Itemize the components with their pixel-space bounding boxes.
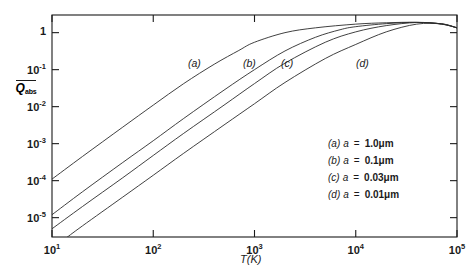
legend-entry-variable: a [343, 172, 349, 183]
legend-entry-variable: a [343, 155, 349, 166]
x-axis-title: T(K) [240, 253, 261, 265]
legend-entry-key: (b) [328, 155, 340, 166]
ytick-label-0: 1 [26, 25, 46, 37]
legend-entry-value: 0.01μm [365, 189, 399, 200]
legend-entry-key: (a) [328, 138, 340, 149]
curve-tag-d: (d) [356, 57, 369, 69]
legend-entry-equals: = [351, 172, 361, 183]
ytick-label-2: 10-2 [18, 99, 46, 113]
legend-entry-value: 0.1μm [365, 155, 394, 166]
legend-entry-equals: = [352, 155, 362, 166]
legend-entry-equals: = [352, 189, 362, 200]
ytick-label-1: 10-1 [18, 62, 46, 76]
ytick-label-5: 10-5 [18, 210, 46, 224]
curve-tag-b: (b) [243, 57, 256, 69]
y-axis-title-subscript: abs [25, 88, 36, 95]
y-axis-title-letter: Q [16, 81, 25, 95]
ytick-label-4: 10-4 [18, 173, 46, 187]
curve-d [64, 23, 457, 240]
legend: (a)a=1.0μm(b)a=0.1μm(c)a=0.03μm(d)a=0.01… [328, 138, 399, 200]
legend-entry-equals: = [352, 138, 362, 149]
curve-tag-a: (a) [188, 57, 201, 69]
legend-entry-key: (d) [328, 189, 340, 200]
y-axis-title: Qabs [6, 78, 46, 96]
figure-root: 1 10-1 10-2 10-3 10-4 10-5 101 102 103 1… [0, 0, 468, 274]
ytick-label-3: 10-3 [18, 136, 46, 150]
legend-entry-c: (c)a=0.03μm [328, 172, 399, 183]
legend-entry-a: (a)a=1.0μm [328, 138, 399, 149]
legend-entry-variable: a [343, 189, 349, 200]
xtick-label-1: 102 [139, 242, 167, 256]
xtick-label-4: 105 [443, 242, 468, 256]
legend-entry-d: (d)a=0.01μm [328, 189, 399, 200]
xtick-label-3: 104 [342, 242, 370, 256]
legend-entry-variable: a [343, 138, 349, 149]
legend-entry-value: 1.0μm [365, 138, 394, 149]
curve-tag-c: (c) [281, 57, 293, 69]
data-curves [52, 22, 457, 240]
xtick-label-0: 101 [38, 242, 66, 256]
plot-canvas [0, 0, 468, 274]
legend-entry-b: (b)a=0.1μm [328, 155, 399, 166]
legend-entry-value: 0.03μm [364, 172, 398, 183]
legend-entry-key: (c) [328, 172, 340, 183]
